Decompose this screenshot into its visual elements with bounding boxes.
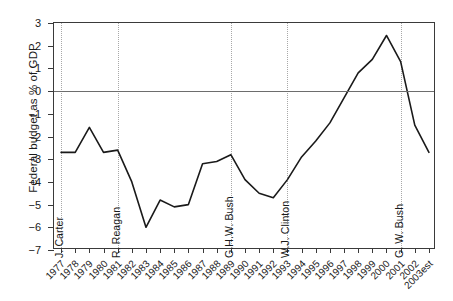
y-axis-title-container: Federal budget as % of GDP [0,0,26,250]
y-tick-label: 2 [35,40,48,52]
y-tick-label: 1 [35,62,48,74]
y-tick-label: −5 [28,199,48,211]
y-tick-label: 3 [35,17,48,29]
y-tick-label: −3 [28,153,48,165]
budget-line-path [61,35,429,227]
y-tick-label: 0 [35,85,48,97]
budget-line-series [54,23,436,250]
plot-area: 3210−1−2−3−4−5−6−7 197719781979198019811… [53,22,435,249]
y-tick-label: −7 [28,244,48,256]
zero-baseline [54,91,434,92]
y-tick-label: −1 [28,108,48,120]
y-tick-label: −6 [28,221,48,233]
y-tick-label: −2 [28,131,48,143]
chart-figure: Federal budget as % of GDP 3210−1−2−3−4−… [0,0,453,301]
y-tick-label: −4 [28,176,48,188]
